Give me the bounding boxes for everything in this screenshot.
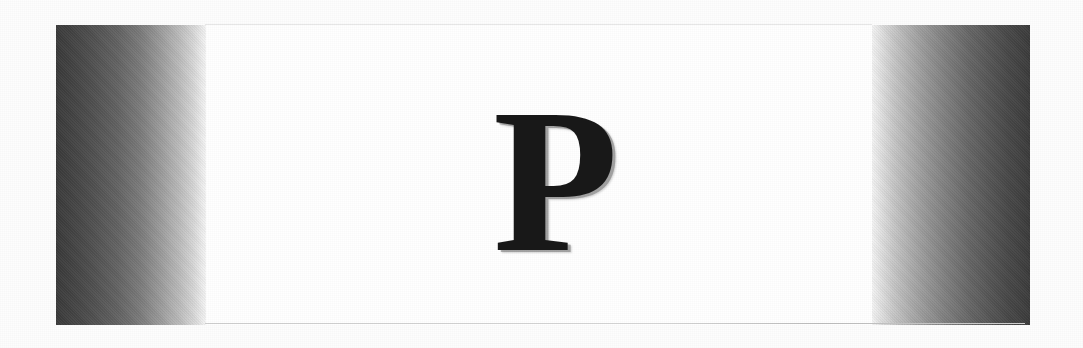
page-bottom-edge-rule [205, 323, 1025, 324]
page-sheet [205, 25, 872, 325]
scanned-page-canvas: P [0, 0, 1083, 348]
page-top-edge-rule [205, 24, 872, 25]
scanner-shadow-right [872, 25, 1030, 325]
scanner-shadow-left [56, 25, 206, 325]
